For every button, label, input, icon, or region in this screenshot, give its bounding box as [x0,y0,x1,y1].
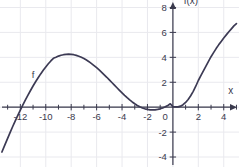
y-tick-label: 6 [162,27,167,38]
function-graph-figure: -12-10-8-6-4-2024-4-22468 ff(x)x [0,0,239,167]
x-tick-label: -10 [39,111,53,122]
x-tick-label: 4 [221,111,226,122]
y-axis-title: f(x) [184,0,198,6]
x-axis-title: x [228,85,233,96]
x-tick-label: -8 [67,111,75,122]
plot-canvas: -12-10-8-6-4-2024-4-22468 ff(x)x [0,0,239,167]
x-tick-label: -12 [13,111,27,122]
origin-label: 0 [163,111,168,122]
y-tick-label: 2 [162,77,167,88]
y-tick-label: -4 [158,151,166,162]
y-tick-label: 4 [162,52,167,63]
x-tick-label: -4 [118,111,126,122]
x-tick-label: -6 [92,111,100,122]
y-tick-label: 8 [162,2,167,13]
x-tick-label: -2 [143,111,151,122]
y-tick-label: -2 [158,127,166,138]
plot-background [0,0,239,167]
x-tick-label: 2 [196,111,201,122]
curve-name-label: f [32,69,35,80]
